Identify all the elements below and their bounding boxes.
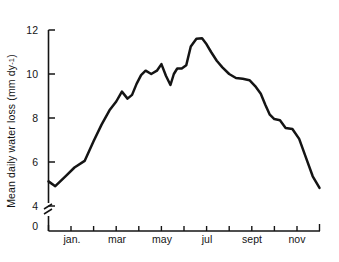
chart-figure: Mean daily water loss (mm dy-1) 0 4 6 8 … [0,0,339,262]
chart-plot-area [0,0,339,262]
y-axis-ticks [49,30,56,206]
data-series-line [49,38,320,188]
x-axis-ticks [49,224,320,231]
